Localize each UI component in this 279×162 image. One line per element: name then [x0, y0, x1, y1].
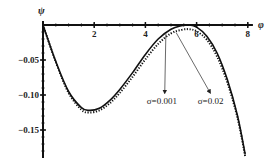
annotation-label: σ=0.02: [198, 96, 224, 106]
curves: [43, 25, 245, 157]
axes: 2468−0.05−0.10−0.15: [18, 21, 253, 158]
annotation-label: σ=0.001: [147, 96, 177, 106]
y-tick-label: −0.05: [18, 55, 39, 65]
x-axis-title: φ: [258, 19, 264, 30]
chart: 2468−0.05−0.10−0.15 σ=0.001σ=0.02 ψ φ: [0, 0, 279, 162]
annotation-arrow: [165, 33, 166, 92]
annotation-arrow: [176, 33, 210, 93]
x-tick-label: 8: [246, 29, 251, 39]
curve-sigma-0.02: [43, 25, 245, 155]
y-tick-label: −0.10: [18, 90, 39, 100]
curve-sigma-0.001: [43, 25, 245, 157]
y-axis-title: ψ: [38, 5, 45, 16]
x-tick-label: 4: [143, 29, 148, 39]
y-tick-label: −0.15: [18, 125, 39, 135]
x-tick-label: 2: [92, 29, 97, 39]
